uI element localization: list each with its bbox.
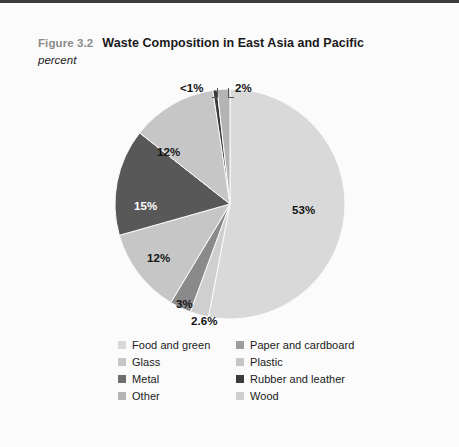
- figure-units-label: percent: [38, 53, 428, 67]
- legend-label: Metal: [132, 373, 159, 385]
- pie-chart: 53% 12% 15% 12% 3% 2.6% <1% 2%: [0, 76, 459, 326]
- slice-label-metal: 15%: [134, 200, 157, 212]
- legend-item-plastic[interactable]: Plastic: [236, 356, 368, 368]
- legend-label: Wood: [250, 390, 279, 402]
- legend-item-paper-and-cardboard[interactable]: Paper and cardboard: [236, 339, 368, 351]
- legend-swatch-icon: [236, 375, 244, 383]
- slice-label-wood: 2.6%: [191, 315, 218, 327]
- legend-swatch-icon: [118, 358, 126, 366]
- figure-header: Figure 3.2Waste Composition in East Asia…: [38, 34, 428, 67]
- slice-label-glass: 12%: [157, 146, 180, 158]
- legend-swatch-icon: [236, 341, 244, 349]
- figure-number: Figure 3.2: [38, 37, 93, 49]
- slice-label-rubber-and-leather: 3%: [176, 298, 193, 310]
- legend-label: Other: [132, 390, 160, 402]
- legend-swatch-icon: [118, 341, 126, 349]
- legend-label: Food and green: [132, 339, 210, 351]
- page-title: Waste Composition in East Asia and Pacif…: [102, 36, 364, 50]
- legend-label: Paper and cardboard: [250, 339, 354, 351]
- leader-line-paper-and-cardboard: [228, 88, 234, 98]
- legend-swatch-icon: [236, 358, 244, 366]
- legend-label: Glass: [132, 356, 160, 368]
- legend-item-other[interactable]: Other: [118, 390, 236, 402]
- legend-swatch-icon: [118, 392, 126, 400]
- legend-label: Plastic: [250, 356, 283, 368]
- figure-title-line: Figure 3.2Waste Composition in East Asia…: [38, 34, 428, 51]
- legend-item-wood[interactable]: Wood: [236, 390, 368, 402]
- slice-label-other: <1%: [180, 82, 204, 94]
- legend-item-rubber-and-leather[interactable]: Rubber and leather: [236, 373, 368, 385]
- slice-label-paper-and-cardboard: 2%: [235, 82, 252, 94]
- chart-legend: Food and greenPaper and cardboardGlassPl…: [118, 336, 368, 404]
- slice-label-food-and-green: 53%: [292, 204, 315, 216]
- top-rule-divider: [0, 0, 459, 3]
- slice-label-plastic: 12%: [147, 252, 170, 264]
- legend-label: Rubber and leather: [250, 373, 345, 385]
- figure-panel: Figure 3.2Waste Composition in East Asia…: [0, 0, 459, 447]
- legend-swatch-icon: [236, 392, 244, 400]
- legend-item-metal[interactable]: Metal: [118, 373, 236, 385]
- legend-item-food-and-green[interactable]: Food and green: [118, 339, 236, 351]
- legend-swatch-icon: [118, 375, 126, 383]
- legend-item-glass[interactable]: Glass: [118, 356, 236, 368]
- leader-line-other: [212, 88, 218, 98]
